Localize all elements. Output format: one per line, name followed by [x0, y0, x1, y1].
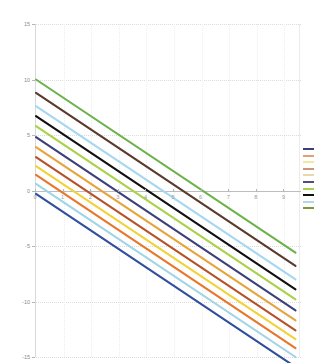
x-tick-mark	[256, 189, 257, 192]
legend-swatch-4	[303, 168, 314, 170]
y-tick-label: 10	[0, 77, 30, 83]
x-tick-label: 5	[168, 194, 178, 200]
x-tick-mark	[63, 189, 64, 192]
y-tick-mark	[32, 246, 35, 247]
y-tick-mark	[32, 302, 35, 303]
legend-swatch-10	[303, 207, 314, 209]
series-line-series-12	[36, 194, 295, 363]
legend-item[interactable]	[303, 174, 317, 181]
y-tick-label: 15	[0, 21, 30, 27]
x-tick-label: 3	[113, 194, 123, 200]
y-tick-label: 0	[0, 188, 30, 194]
series-line-series-8	[36, 157, 295, 330]
x-tick-mark	[90, 189, 91, 192]
series-line-series-7	[36, 147, 295, 320]
x-tick-mark	[118, 189, 119, 192]
plot-area	[35, 24, 300, 357]
legend-item[interactable]	[303, 194, 317, 201]
legend-item[interactable]	[303, 201, 317, 208]
legend-item[interactable]	[303, 188, 317, 195]
legend-swatch-3	[303, 161, 314, 163]
y-tick-label: -10	[0, 299, 30, 305]
legend-swatch-5	[303, 174, 314, 176]
x-tick-label: 7	[223, 194, 233, 200]
legend-item[interactable]	[303, 207, 317, 214]
y-tick-mark	[32, 24, 35, 25]
legend-item[interactable]	[303, 168, 317, 175]
series-line-series-1	[36, 80, 295, 253]
gridline-y--15	[36, 357, 301, 358]
x-tick-mark	[283, 189, 284, 192]
legend-swatch-7	[303, 188, 314, 190]
series-line-series-6	[36, 137, 295, 310]
x-tick-label: 1	[58, 194, 68, 200]
legend-swatch-8	[303, 194, 314, 196]
legend-swatch-1	[303, 148, 314, 150]
series-lines	[36, 24, 301, 357]
x-tick-mark	[145, 189, 146, 192]
y-tick-mark	[32, 80, 35, 81]
y-tick-mark	[32, 135, 35, 136]
x-tick-label: 6	[196, 194, 206, 200]
legend-item[interactable]	[303, 181, 317, 188]
x-tick-mark	[173, 189, 174, 192]
x-tick-label: 2	[85, 194, 95, 200]
x-tick-label: 4	[140, 194, 150, 200]
legend-item[interactable]	[303, 155, 317, 162]
y-tick-label: 5	[0, 132, 30, 138]
x-tick-mark	[228, 189, 229, 192]
legend-item[interactable]	[303, 161, 317, 168]
legend-swatch-2	[303, 155, 314, 157]
x-tick-label: 8	[251, 194, 261, 200]
x-tick-mark	[35, 189, 36, 192]
chart-legend	[303, 148, 317, 214]
legend-item[interactable]	[303, 148, 317, 155]
series-line-series-10	[36, 175, 295, 348]
series-line-series-2	[36, 93, 295, 266]
series-line-series-4	[36, 116, 295, 289]
x-tick-label: 0	[30, 194, 40, 200]
x-tick-label: 9	[278, 194, 288, 200]
series-line-series-5	[36, 126, 295, 299]
y-tick-label: -5	[0, 243, 30, 249]
x-tick-mark	[201, 189, 202, 192]
series-line-series-11	[36, 184, 295, 357]
y-tick-label: -15	[0, 354, 30, 360]
legend-swatch-6	[303, 181, 314, 183]
legend-swatch-9	[303, 201, 314, 203]
y-tick-mark	[32, 357, 35, 358]
chart-container: 151050-5-10-15 0123456789	[0, 0, 317, 363]
